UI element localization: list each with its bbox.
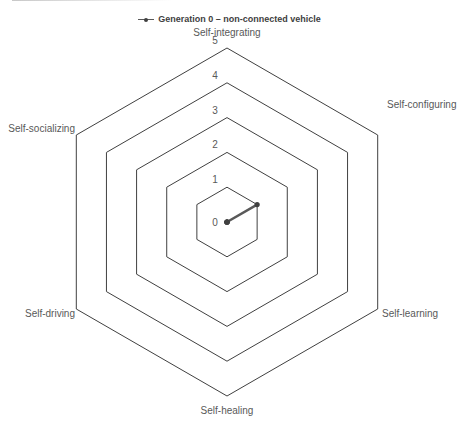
data-point-marker: [224, 219, 229, 224]
axis-label-self-healing: Self-healing: [201, 405, 254, 416]
axis-label-self-socializing: Self-socializing: [8, 123, 75, 134]
radial-tick-label: 4: [212, 70, 218, 81]
radial-tick-label: 2: [212, 139, 218, 150]
series-line: [227, 205, 257, 222]
axis-label-self-integrating: Self-integrating: [193, 27, 260, 38]
radar-chart: 012345Self-integratingSelf-configuringSe…: [0, 0, 459, 430]
axis-label-self-learning: Self-learning: [382, 308, 438, 319]
radial-tick-label: 3: [212, 105, 218, 116]
radial-tick-label: 1: [212, 174, 218, 185]
axis-label-self-driving: Self-driving: [25, 308, 75, 319]
radial-tick-label: 0: [212, 217, 218, 228]
axis-label-self-configuring: Self-configuring: [387, 99, 456, 110]
data-point-marker: [255, 202, 260, 207]
